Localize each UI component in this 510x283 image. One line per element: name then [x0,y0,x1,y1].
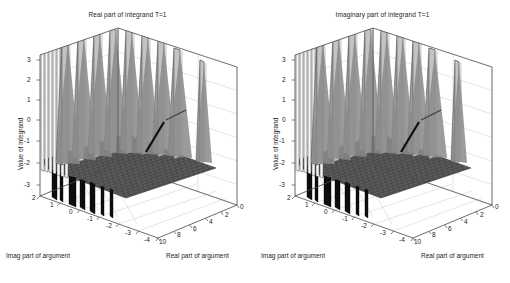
imagtick-m4-real: -4 [144,236,150,243]
imag-axis-label-real: Imag part of argument [6,252,70,259]
ztick-3-real: 3 [27,56,31,63]
ztick-m2-imaginary: -2 [279,159,285,166]
imagtick-0-imaginary: 0 [324,208,328,215]
realtick-0-real: 0 [240,203,244,210]
realtick-10-real: 10 [159,238,166,245]
realtick-10-imaginary: 10 [414,238,421,245]
real-axis-label-imaginary: Real part of argument [421,252,484,259]
imagtick-m3-imaginary: -3 [380,229,386,236]
realtick-4-real: 4 [209,218,213,225]
ztick-1-real: 1 [27,96,31,103]
real-axis-label-real: Real part of argument [166,252,229,259]
imagtick-1-imaginary: 1 [305,201,309,208]
surface-plot-imaginary [255,0,510,283]
imagtick-m2-real: -2 [106,222,112,229]
ztick-0-imaginary: 0 [282,116,286,123]
realtick-4-imaginary: 4 [464,218,468,225]
ztick-2-imaginary: 2 [282,76,286,83]
imagtick-m4-imaginary: -4 [399,236,405,243]
zaxis-label-imaginary: Value of integrand [272,118,279,170]
imag-axis-label-imaginary: Imag part of argument [261,252,325,259]
realtick-2-imaginary: 2 [480,211,484,218]
ztick-0-real: 0 [27,116,31,123]
imagtick-1-real: 1 [50,201,54,208]
plot-panel-real: Real part of integrand T=1 [0,0,255,283]
imagtick-m2-imaginary: -2 [361,222,367,229]
realtick-6-real: 6 [193,225,197,232]
ztick-m2-real: -2 [24,159,30,166]
realtick-8-real: 8 [177,231,181,238]
realtick-2-real: 2 [225,211,229,218]
imagtick-0-real: 0 [69,208,73,215]
ztick-3-imaginary: 3 [282,56,286,63]
realtick-6-imaginary: 6 [448,225,452,232]
imagtick-m1-imaginary: -1 [342,215,348,222]
imagtick-2-real: 2 [32,194,36,201]
ztick-m1-real: -1 [24,137,30,144]
plot-panel-imaginary: Imaginary part of integrand T=1 [255,0,510,283]
ztick-2-real: 2 [27,76,31,83]
ztick-m1-imaginary: -1 [279,137,285,144]
imagtick-2-imaginary: 2 [287,194,291,201]
realtick-8-imaginary: 8 [432,231,436,238]
realtick-0-imaginary: 0 [495,203,499,210]
ztick-m3-imaginary: -3 [279,181,285,188]
surface-plot-real [0,0,255,283]
zaxis-label-real: Value of integrand [17,118,24,170]
imagtick-m3-real: -3 [125,229,131,236]
ztick-m3-real: -3 [24,181,30,188]
figure-canvas: Real part of integrand T=1 [0,0,510,283]
imagtick-m1-real: -1 [87,215,93,222]
ztick-1-imaginary: 1 [282,96,286,103]
